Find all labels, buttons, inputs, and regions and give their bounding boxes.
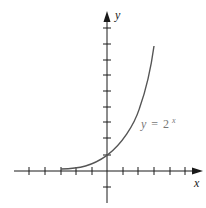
y-axis [103, 11, 111, 203]
x-axis-label: x [193, 176, 200, 190]
y-axis-label: y [114, 8, 121, 22]
x-axis-arrow-icon [192, 168, 203, 175]
y-axis-arrow-icon [104, 11, 111, 22]
graph-canvas: y = 2 x y x [0, 0, 206, 208]
x-axis [14, 167, 203, 175]
curve-label: y = 2 x [140, 116, 176, 131]
